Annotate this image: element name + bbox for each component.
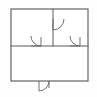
floor-plan-canvas xyxy=(0,0,97,97)
room-lower-room xyxy=(11,46,88,81)
floor-plan-thumbnail xyxy=(0,0,97,97)
